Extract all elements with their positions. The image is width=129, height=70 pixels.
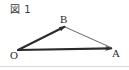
- vertex-label-o: O: [10, 50, 18, 61]
- edge-o-to-b: [18, 27, 65, 50]
- figure-container: 図 1 O A B: [0, 0, 129, 70]
- vertex-label-b: B: [60, 14, 67, 25]
- vector-diagram: [0, 0, 129, 70]
- vertex-label-a: A: [112, 48, 120, 59]
- edge-o-to-a: [18, 48, 111, 50]
- edge-b-to-a: [65, 27, 112, 48]
- figure-bottom-rule: [0, 66, 129, 67]
